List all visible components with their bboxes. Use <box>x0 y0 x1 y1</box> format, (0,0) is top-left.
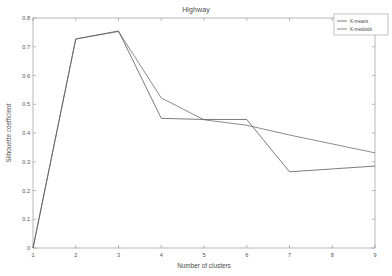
y-axis-tick-labels: 00.10.20.30.40.50.60.70.8 <box>22 15 30 251</box>
legend-label-k-medoids: K-medoids <box>350 27 373 32</box>
axis-frame <box>33 18 375 248</box>
y-tick-label: 0.5 <box>22 101 30 107</box>
y-tick-label: 0.4 <box>22 130 30 136</box>
series-line-k-means <box>33 31 375 248</box>
y-tick-label: 0.8 <box>22 15 30 21</box>
series-line-k-medoids <box>33 32 375 248</box>
y-tick-label: 0.3 <box>22 159 30 165</box>
x-tick-label: 9 <box>373 252 376 258</box>
chart-legend[interactable]: K-means K-medoids <box>334 14 388 35</box>
x-tick-label: 1 <box>31 252 34 258</box>
x-tick-label: 7 <box>288 252 291 258</box>
y-tick-label: 0.2 <box>22 188 30 194</box>
x-axis-title: Number of clusters <box>177 262 231 269</box>
legend-label-k-means: K-means <box>350 19 369 24</box>
y-tick-label: 0 <box>27 245 30 251</box>
y-tick-label: 0.6 <box>22 73 30 79</box>
x-tick-label: 8 <box>331 252 334 258</box>
x-tick-label: 4 <box>160 252 163 258</box>
y-tick-label: 0.1 <box>22 216 30 222</box>
y-tick-label: 0.7 <box>22 44 30 50</box>
y-axis-tick-marks <box>33 18 375 248</box>
y-axis-title: Silhouette coefficient <box>5 103 12 162</box>
x-axis-tick-marks <box>33 18 375 248</box>
x-tick-label: 2 <box>74 252 77 258</box>
x-tick-label: 6 <box>245 252 248 258</box>
x-tick-label: 3 <box>117 252 120 258</box>
chart-plot-area: 123456789 00.10.20.30.40.50.60.70.8 Numb… <box>0 0 392 276</box>
x-tick-label: 5 <box>202 252 205 258</box>
figure-canvas: Highway 123456789 00.10.20.30.40.50.60.7… <box>0 0 392 276</box>
x-axis-tick-labels: 123456789 <box>31 252 376 258</box>
